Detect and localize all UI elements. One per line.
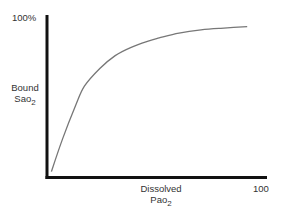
x-axis-title-main: Pao xyxy=(150,194,167,205)
y-axis-title-subscript: 2 xyxy=(31,98,35,107)
x-axis-title-line2: Pao2 xyxy=(138,195,184,206)
x-axis-max-label: 100 xyxy=(253,184,269,194)
y-axis-title-main: Sao xyxy=(14,93,31,104)
y-axis-title-line2: Sao2 xyxy=(9,94,41,105)
y-axis-title-line1: Bound xyxy=(9,83,41,93)
x-axis-title-line1: Dissolved xyxy=(138,184,184,194)
x-axis-title: Dissolved Pao2 xyxy=(138,184,184,206)
y-axis-title: Bound Sao2 xyxy=(9,83,41,105)
saturation-curve xyxy=(51,27,247,172)
x-axis-title-subscript: 2 xyxy=(167,199,171,208)
y-axis-max-label: 100% xyxy=(12,13,36,23)
